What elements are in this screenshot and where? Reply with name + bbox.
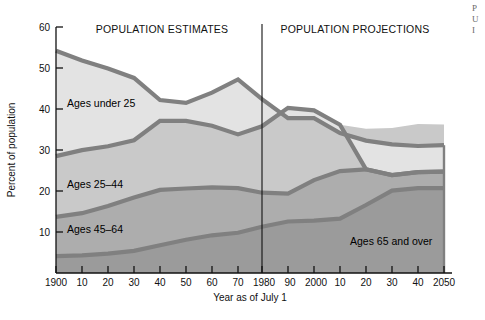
edge-text-fragment-3: I (472, 25, 475, 35)
y-axis-title: Percent of population (6, 103, 17, 198)
x-tick-label-1960: 60 (206, 277, 218, 288)
x-tick-label-2020: 20 (360, 277, 372, 288)
band-label-ages-under-25: Ages under 25 (67, 97, 135, 109)
y-tick-label-50: 50 (39, 63, 51, 74)
x-tick-label-1990: 90 (284, 277, 296, 288)
x-tick-label-1950: 50 (180, 277, 192, 288)
x-tick-label-1940: 40 (154, 277, 166, 288)
x-tick-label-2010: 10 (334, 277, 346, 288)
x-tick-label-1980: 1980 (253, 277, 276, 288)
x-tick-label-2000: 2000 (305, 277, 328, 288)
figure-container: 60 50 40 30 20 10 1900 10 20 30 (0, 0, 485, 320)
edge-text-fragment-1: P (472, 3, 477, 13)
population-age-structure-area-chart: 60 50 40 30 20 10 1900 10 20 30 (0, 0, 485, 320)
x-tick-label-2040: 40 (412, 277, 424, 288)
y-tick-label-30: 30 (39, 145, 51, 156)
x-tick-label-2030: 30 (386, 277, 398, 288)
y-tick-label-60: 60 (39, 22, 51, 33)
y-tick-label-40: 40 (39, 104, 51, 115)
band-label-ages-25-44: Ages 25–44 (67, 178, 123, 190)
y-tick-label-10: 10 (39, 227, 51, 238)
header-population-estimates: POPULATION ESTIMATES (96, 23, 229, 35)
x-tick-label-1920: 20 (102, 277, 114, 288)
x-axis-title: Year as of July 1 (213, 292, 287, 303)
x-tick-label-1930: 30 (128, 277, 140, 288)
band-label-ages-45-64: Ages 45–64 (67, 223, 123, 235)
x-tick-label-1900: 1900 (45, 277, 68, 288)
edge-text-fragment-2: U (472, 14, 479, 24)
x-tick-label-2050: 2050 (433, 277, 456, 288)
header-population-projections: POPULATION PROJECTIONS (281, 23, 430, 35)
band-label-ages-65-and-over: Ages 65 and over (350, 235, 433, 247)
y-tick-label-20: 20 (39, 186, 51, 197)
x-tick-label-1970: 70 (232, 277, 244, 288)
x-tick-label-1910: 10 (76, 277, 88, 288)
